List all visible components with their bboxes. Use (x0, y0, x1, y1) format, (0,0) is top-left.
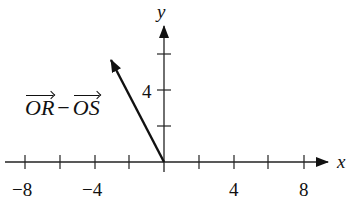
x-tick-label: −8 (12, 180, 32, 199)
y-tick-label: 4 (142, 82, 152, 101)
x-tick-label: 4 (229, 180, 239, 199)
x-tick-label: 8 (299, 180, 309, 199)
x-tick-label: −4 (82, 180, 102, 199)
vector-label: OR−OS (25, 97, 100, 119)
vector-os: OS (73, 97, 100, 119)
y-axis-label: y (157, 2, 165, 21)
x-axis-label: x (337, 152, 345, 171)
minus-sign: − (54, 95, 72, 120)
vector-arrow (111, 60, 164, 162)
vector-or: OR (25, 97, 54, 119)
coordinate-diagram: y x −8 −4 4 8 4 OR−OS (0, 0, 348, 202)
